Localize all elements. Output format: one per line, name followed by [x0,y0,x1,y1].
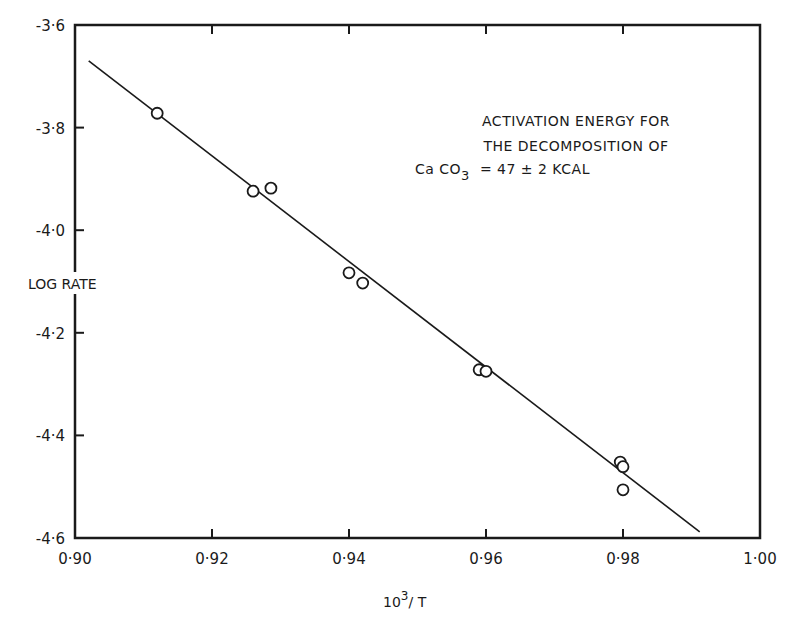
fit-line [89,61,700,532]
chart-canvas: 0·900·920·940·960·981·00 -3·6-3·8-4·0-4·… [0,0,796,622]
xlabel-rest: / T [408,594,426,610]
x-tick-label: 0·90 [58,550,91,568]
data-point [344,267,355,278]
annotation-line-3: Ca CO3= 47 ± 2 KCAL [415,161,590,183]
x-tick-label: 1·00 [743,550,776,568]
x-axis-label: 103/ T [383,589,427,610]
xlabel-base: 10 [383,594,401,610]
y-tick-label: -4·2 [36,325,65,343]
y-tick-label: -4·6 [36,530,65,548]
data-point [481,366,492,377]
y-tick-label: -3·8 [36,120,65,138]
formula-value: = 47 ± 2 KCAL [480,161,590,177]
y-tick-label: -4·0 [36,222,65,240]
data-point [265,183,276,194]
annotation-line-2: THE DECOMPOSITION OF [482,138,668,154]
plot-frame [75,25,760,538]
data-point [152,108,163,119]
y-tick-label: -4·4 [36,427,65,445]
data-point [248,186,259,197]
y-tick-label: -3·6 [36,17,65,35]
data-point [618,461,629,472]
data-point [618,484,629,495]
x-tick-label: 0·98 [606,550,639,568]
formula-caco: Ca CO [415,161,461,177]
x-tick-label: 0·96 [469,550,502,568]
annotation-line-1: ACTIVATION ENERGY FOR [482,113,670,129]
activation-energy-annotation: ACTIVATION ENERGY FOR THE DECOMPOSITION … [415,113,670,183]
xlabel-superscript: 3 [401,589,409,603]
regression-line [89,61,700,532]
x-tick-label: 0·92 [195,550,228,568]
data-point [357,278,368,289]
formula-subscript: 3 [461,168,470,183]
x-tick-label: 0·94 [332,550,365,568]
y-axis-label: LOG RATE [28,276,97,292]
x-axis-ticks: 0·900·920·940·960·981·00 [58,25,776,568]
